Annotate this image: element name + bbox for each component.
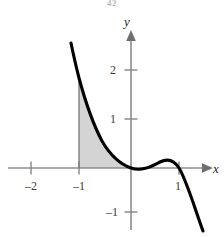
x-axis-label: x — [212, 161, 219, 176]
x-axis-arrowhead — [202, 163, 213, 173]
y-axis-label: y — [122, 14, 130, 29]
y-tick-label-2: 2 — [110, 63, 116, 77]
y-tick-label-1: 1 — [110, 112, 116, 126]
x-tick-label--2: –2 — [24, 179, 37, 193]
figure-container: 42 y x –2 –1 1 2 1 –1 — [0, 0, 224, 237]
plot-svg: y x –2 –1 1 2 1 –1 — [0, 0, 224, 237]
y-axis-arrowhead — [126, 30, 136, 41]
shaded-region — [79, 78, 131, 168]
x-tick-label--1: –1 — [72, 179, 85, 193]
y-tick-label--1: –1 — [105, 205, 118, 219]
x-tick-label-1: 1 — [175, 179, 181, 193]
